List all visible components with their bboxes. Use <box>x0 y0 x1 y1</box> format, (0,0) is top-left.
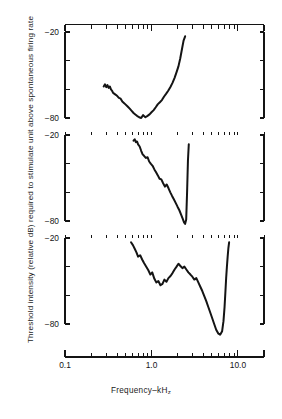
x-tick-label: 10.0 <box>230 360 247 370</box>
y-tick-label-bottom: −80 <box>45 216 60 226</box>
tuning-curve <box>104 36 185 118</box>
y-tick-label-top: −20 <box>45 27 60 37</box>
plot-canvas: −20−80−20−80−20−800.11.010.0 <box>0 0 282 419</box>
tuning-curve-figure: Threshold intensity (relative dB) requir… <box>0 0 282 419</box>
x-tick-label: 1.0 <box>146 360 158 370</box>
y-tick-label-top: −20 <box>45 233 60 243</box>
tuning-curve <box>131 242 229 334</box>
y-tick-label-bottom: −80 <box>45 319 60 329</box>
x-tick-label: 0.1 <box>59 360 71 370</box>
y-tick-label-top: −20 <box>45 130 60 140</box>
y-tick-label-bottom: −80 <box>45 113 60 123</box>
tuning-curve <box>134 139 189 224</box>
